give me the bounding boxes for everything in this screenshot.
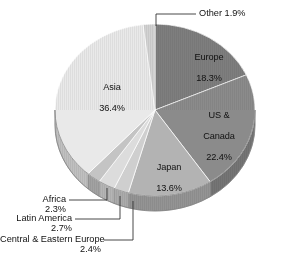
callout-label-central-eastern-europe-name: Central & Eastern Europe [0,234,105,244]
callout-label-other: Other 1.9% [199,8,245,18]
callout-label-latin-america: Latin America 2.7% [0,213,72,234]
callout-label-latin-america-pct: 2.7% [0,223,72,233]
pie-top-faces [55,24,255,196]
callout-label-africa-name: Africa [43,194,67,204]
callout-label-latin-america-name: Latin America [16,213,72,223]
callout-label-other-text: Other 1.9% [199,8,245,18]
callout-label-central-eastern-europe-pct: 2.4% [0,244,101,254]
pie-chart: Europe 18.3% US & Canada 22.4% Japan 13.… [0,0,285,264]
callout-label-central-eastern-europe: Central & Eastern Europe 2.4% [0,234,101,255]
callout-label-africa: Africa 2.3% [0,194,66,215]
